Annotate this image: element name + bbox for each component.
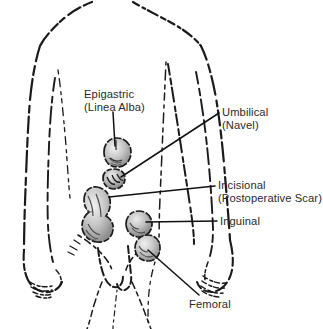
label-incisional-line1: Incisional <box>218 179 266 191</box>
bulge-inguinal <box>126 211 152 237</box>
anatomical-illustration <box>0 0 323 329</box>
label-inguinal: Inguinal <box>220 215 260 228</box>
bulge-epigastric <box>104 138 131 167</box>
label-femoral: Femoral <box>189 298 231 311</box>
label-umbilical-line1: Umbilical <box>222 106 268 118</box>
label-femoral-line1: Femoral <box>189 298 231 310</box>
label-epigastric: Epigastric (Linea Alba) <box>84 88 145 113</box>
inguinal-leader <box>146 221 217 222</box>
label-incisional: Incisional (Postoperative Scar) <box>218 179 322 204</box>
bulge-umbilical <box>103 169 125 189</box>
label-inguinal-line1: Inguinal <box>220 215 260 227</box>
label-umbilical-line2: (Navel) <box>222 119 268 132</box>
label-umbilical: Umbilical (Navel) <box>222 106 268 131</box>
label-incisional-line2: (Postoperative Scar) <box>218 192 322 205</box>
label-epigastric-line1: Epigastric <box>84 88 134 100</box>
hernia-sites-figure: Epigastric (Linea Alba) Umbilical (Navel… <box>0 0 323 329</box>
label-epigastric-line2: (Linea Alba) <box>84 101 145 114</box>
